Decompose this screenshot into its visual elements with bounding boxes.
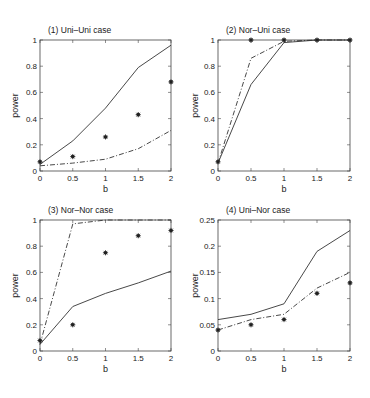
axes-frame	[218, 220, 350, 351]
y-tick-label: 0.05	[199, 321, 215, 330]
star-marker	[314, 291, 319, 296]
y-tick-label: 1	[211, 36, 216, 45]
x-tick-label: 0	[38, 354, 43, 363]
panel-2: 00.511.5200.20.40.60.81(2) Nor–Uni caseb…	[190, 25, 353, 194]
y-tick-label: 0.1	[204, 295, 216, 304]
x-tick-label: 2	[348, 174, 353, 183]
solid-line-series	[40, 45, 171, 164]
y-tick-label: 1	[33, 36, 38, 45]
y-axis-label: power	[10, 273, 20, 298]
x-tick-label: 1	[103, 354, 108, 363]
x-tick-label: 1	[282, 354, 287, 363]
x-tick-label: 2	[169, 174, 174, 183]
y-tick-label: 0.6	[26, 268, 38, 277]
y-tick-label: 0.8	[204, 62, 216, 71]
x-tick-label: 1.5	[133, 174, 145, 183]
star-marker	[281, 37, 286, 42]
star-marker	[37, 338, 42, 343]
panel-4: 00.511.5200.050.10.150.20.25(4) Uni–Nor …	[190, 205, 353, 374]
star-marker	[347, 37, 352, 42]
y-tick-label: 0.6	[26, 88, 38, 97]
y-tick-label: 1	[33, 216, 38, 225]
x-tick-label: 0	[38, 174, 43, 183]
star-marker	[314, 37, 319, 42]
y-tick-label: 0.2	[204, 141, 216, 150]
y-tick-label: 0.8	[26, 242, 38, 251]
y-tick-label: 0.2	[204, 242, 216, 251]
star-marker	[281, 317, 286, 322]
star-marker	[215, 159, 220, 164]
panel-1: 00.511.5200.20.40.60.81(1) Uni–Uni caseb…	[10, 25, 174, 194]
y-tick-label: 0.4	[26, 295, 38, 304]
x-tick-label: 0.5	[245, 174, 257, 183]
x-tick-label: 1	[282, 174, 287, 183]
y-axis-label: power	[10, 93, 20, 118]
y-tick-label: 0	[33, 347, 38, 356]
x-tick-label: 0	[216, 174, 221, 183]
star-marker	[168, 228, 173, 233]
star-marker	[168, 79, 173, 84]
x-tick-label: 1.5	[133, 354, 145, 363]
star-marker	[70, 322, 75, 327]
star-marker	[248, 37, 253, 42]
axes-frame	[218, 40, 350, 171]
x-axis-label: b	[281, 364, 286, 374]
x-axis-label: b	[281, 184, 286, 194]
y-axis-label: power	[190, 273, 200, 298]
x-axis-label: b	[103, 184, 108, 194]
x-tick-label: 2	[348, 354, 353, 363]
solid-line-series	[40, 271, 171, 344]
star-marker	[103, 134, 108, 139]
y-tick-label: 0.15	[199, 268, 215, 277]
y-tick-label: 0	[211, 167, 216, 176]
axes-frame	[40, 220, 171, 351]
axes-frame	[40, 40, 171, 171]
y-tick-label: 0.25	[199, 216, 215, 225]
star-marker	[215, 327, 220, 332]
panel-title: (3) Nor–Nor case	[48, 205, 113, 215]
x-tick-label: 0.5	[67, 354, 79, 363]
y-tick-label: 0.6	[204, 88, 216, 97]
x-tick-label: 1.5	[311, 354, 323, 363]
star-marker	[248, 322, 253, 327]
x-tick-label: 0.5	[67, 174, 79, 183]
star-marker	[347, 280, 352, 285]
star-marker	[136, 112, 141, 117]
dashdot-line-series	[218, 40, 350, 163]
y-tick-label: 0.2	[26, 141, 38, 150]
solid-line-series	[218, 231, 350, 320]
panel-title: (4) Uni–Nor case	[226, 205, 291, 215]
panel-title: (1) Uni–Uni case	[48, 25, 112, 35]
panel-3: 00.511.5200.20.40.60.81(3) Nor–Nor caseb…	[10, 205, 174, 374]
star-marker	[70, 154, 75, 159]
y-axis-label: power	[190, 93, 200, 118]
star-marker	[37, 159, 42, 164]
x-tick-label: 0.5	[245, 354, 257, 363]
dashdot-line-series	[40, 220, 171, 344]
x-tick-label: 2	[169, 354, 174, 363]
y-tick-label: 0.8	[26, 62, 38, 71]
star-marker	[136, 233, 141, 238]
x-axis-label: b	[103, 364, 108, 374]
x-tick-label: 0	[216, 354, 221, 363]
y-tick-label: 0.4	[26, 115, 38, 124]
star-marker	[103, 250, 108, 255]
y-tick-label: 0.2	[26, 321, 38, 330]
panel-title: (2) Nor–Uni case	[226, 25, 291, 35]
y-tick-label: 0.4	[204, 115, 216, 124]
x-tick-label: 1	[103, 174, 108, 183]
figure: 00.511.5200.20.40.60.81(1) Uni–Uni caseb…	[0, 0, 370, 398]
x-tick-label: 1.5	[311, 174, 323, 183]
y-tick-label: 0	[211, 347, 216, 356]
y-tick-label: 0	[33, 167, 38, 176]
